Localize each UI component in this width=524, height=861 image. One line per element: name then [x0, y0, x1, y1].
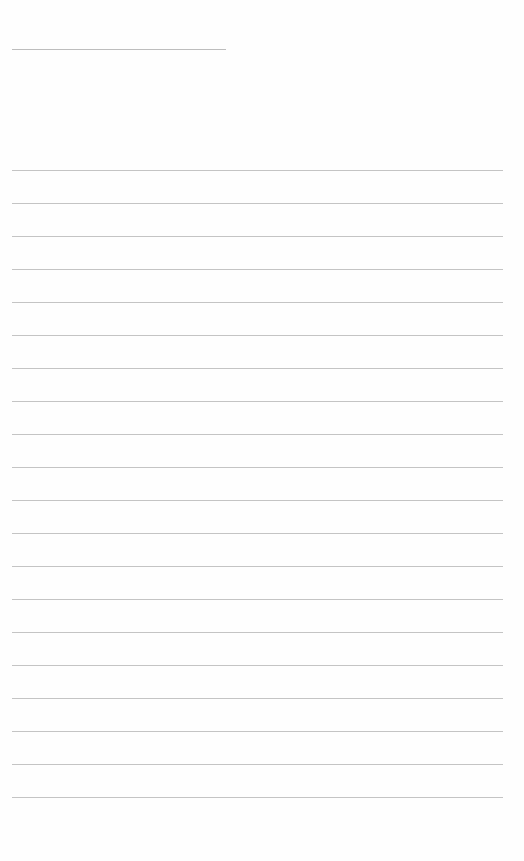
ruled-line: [12, 401, 503, 402]
ruled-line: [12, 500, 503, 501]
ruled-line: [12, 764, 503, 765]
ruled-line: [12, 632, 503, 633]
ruled-line: [12, 335, 503, 336]
lined-page: [0, 0, 524, 861]
ruled-line: [12, 203, 503, 204]
ruled-line: [12, 302, 503, 303]
ruled-line: [12, 797, 503, 798]
ruled-line: [12, 566, 503, 567]
ruled-line: [12, 467, 503, 468]
ruled-line: [12, 698, 503, 699]
header-line: [12, 49, 226, 50]
ruled-line: [12, 170, 503, 171]
ruled-line: [12, 533, 503, 534]
ruled-line: [12, 368, 503, 369]
ruled-line: [12, 434, 503, 435]
ruled-line: [12, 236, 503, 237]
ruled-line: [12, 665, 503, 666]
ruled-line: [12, 599, 503, 600]
ruled-line: [12, 269, 503, 270]
ruled-line: [12, 731, 503, 732]
